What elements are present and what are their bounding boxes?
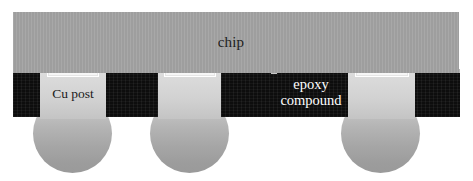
cu-post xyxy=(158,73,221,119)
chip-die: chip xyxy=(13,12,459,73)
epoxy-label-line-1: epoxy xyxy=(255,76,367,92)
epoxy-compound-label: epoxy compound xyxy=(255,76,367,108)
epoxy-label-line-2: compound xyxy=(255,92,367,108)
chip-label: chip xyxy=(13,12,459,73)
cu-post-label: Cu post xyxy=(40,86,106,102)
figure-canvas: chip Cu post epoxy compound xyxy=(0,0,473,181)
